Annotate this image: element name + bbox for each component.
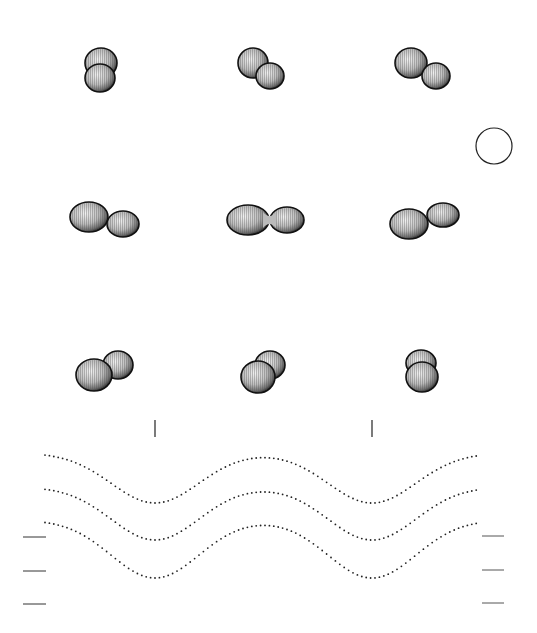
binary-view-2	[238, 48, 284, 89]
primary-star	[76, 359, 112, 391]
axis-ticks	[23, 536, 504, 604]
binary-view-5	[227, 205, 304, 235]
secondary-star	[107, 211, 139, 237]
secondary-star	[256, 63, 284, 89]
primary-star	[241, 361, 275, 393]
primary-star	[406, 362, 438, 392]
binary-view-7	[76, 351, 133, 391]
secondary-star	[427, 203, 459, 227]
primary-star	[227, 205, 269, 235]
secondary-star	[85, 64, 115, 92]
curve-1	[44, 454, 477, 504]
scale-circle-icon	[476, 128, 512, 164]
primary-star	[390, 209, 428, 239]
binary-view-1	[85, 48, 117, 92]
binary-view-8	[241, 351, 285, 393]
binary-views-grid	[70, 48, 459, 393]
curve-2	[44, 488, 477, 540]
phase-markers	[155, 420, 372, 437]
binary-view-6	[390, 203, 459, 239]
binary-view-4	[70, 202, 139, 237]
contact-neck	[263, 212, 276, 228]
binary-star-figure	[0, 0, 537, 633]
curve-3	[44, 522, 477, 579]
binary-view-3	[395, 48, 450, 89]
light-curves	[44, 454, 477, 579]
primary-star	[70, 202, 108, 232]
binary-view-9	[406, 350, 438, 392]
secondary-star	[422, 63, 450, 89]
